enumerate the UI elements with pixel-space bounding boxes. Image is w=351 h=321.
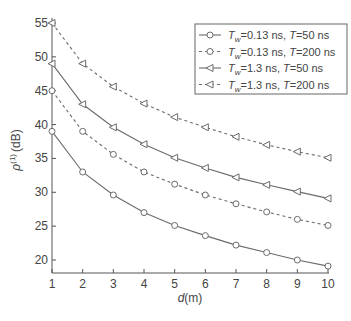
y-tick-label: 40 (35, 118, 49, 132)
triangle-marker (171, 154, 178, 161)
circle-marker (233, 201, 239, 207)
circle-marker (49, 88, 55, 94)
y-tick-label: 30 (35, 185, 49, 199)
circle-marker (141, 210, 147, 216)
y-tick-label: 25 (35, 219, 49, 233)
triangle-marker (171, 114, 178, 121)
triangle-marker (263, 181, 270, 188)
triangle-marker (293, 188, 300, 195)
x-tick-label: 2 (79, 277, 86, 291)
x-tick-label: 7 (233, 277, 240, 291)
y-tick-label: 50 (35, 50, 49, 64)
series-line (52, 131, 328, 266)
x-tick-label: 4 (141, 277, 148, 291)
triangle-marker (79, 60, 86, 67)
x-tick-label: 10 (321, 277, 335, 291)
circle-marker (294, 257, 300, 263)
x-tick-label: 1 (49, 277, 56, 291)
circle-marker (202, 192, 208, 198)
line-chart: 123456789102025303540455055 Tw=0.13 ns, … (0, 0, 351, 321)
circle-marker (141, 169, 147, 175)
triangle-marker (324, 154, 331, 161)
x-tick-label: 6 (202, 277, 209, 291)
circle-marker (80, 128, 86, 134)
legend: Tw=0.13 ns, T=50 nsTw=0.13 ns, T=200 nsT… (195, 24, 347, 94)
circle-marker (202, 233, 208, 239)
circle-marker (207, 49, 213, 55)
triangle-marker (293, 148, 300, 155)
circle-marker (325, 263, 331, 269)
y-axis-label: ρ(1)(dB) (8, 129, 23, 171)
series-line (52, 91, 328, 226)
triangle-marker (79, 101, 86, 108)
series-2 (49, 88, 331, 229)
x-tick-label: 9 (294, 277, 301, 291)
triangle-marker (201, 164, 208, 171)
circle-marker (264, 250, 270, 256)
y-tick-label: 45 (35, 84, 49, 98)
triangle-marker (140, 100, 147, 107)
triangle-marker (232, 133, 239, 140)
circle-marker (110, 151, 116, 157)
circle-marker (172, 222, 178, 228)
y-tick-label: 55 (35, 16, 49, 30)
x-axis-label: d(m) (178, 291, 203, 305)
circle-marker (172, 181, 178, 187)
triangle-marker (263, 141, 270, 148)
y-tick-label: 35 (35, 151, 49, 165)
circle-marker (325, 222, 331, 228)
circle-marker (264, 209, 270, 215)
circle-marker (294, 216, 300, 222)
circle-marker (207, 32, 213, 38)
circle-marker (233, 242, 239, 248)
x-tick-label: 5 (171, 277, 178, 291)
x-tick-label: 8 (263, 277, 270, 291)
circle-marker (49, 128, 55, 134)
triangle-marker (140, 141, 147, 148)
triangle-marker (201, 124, 208, 131)
circle-marker (110, 192, 116, 198)
triangle-marker (232, 174, 239, 181)
x-tick-label: 3 (110, 277, 117, 291)
y-tick-label: 20 (35, 253, 49, 267)
triangle-marker (324, 195, 331, 202)
circle-marker (80, 169, 86, 175)
